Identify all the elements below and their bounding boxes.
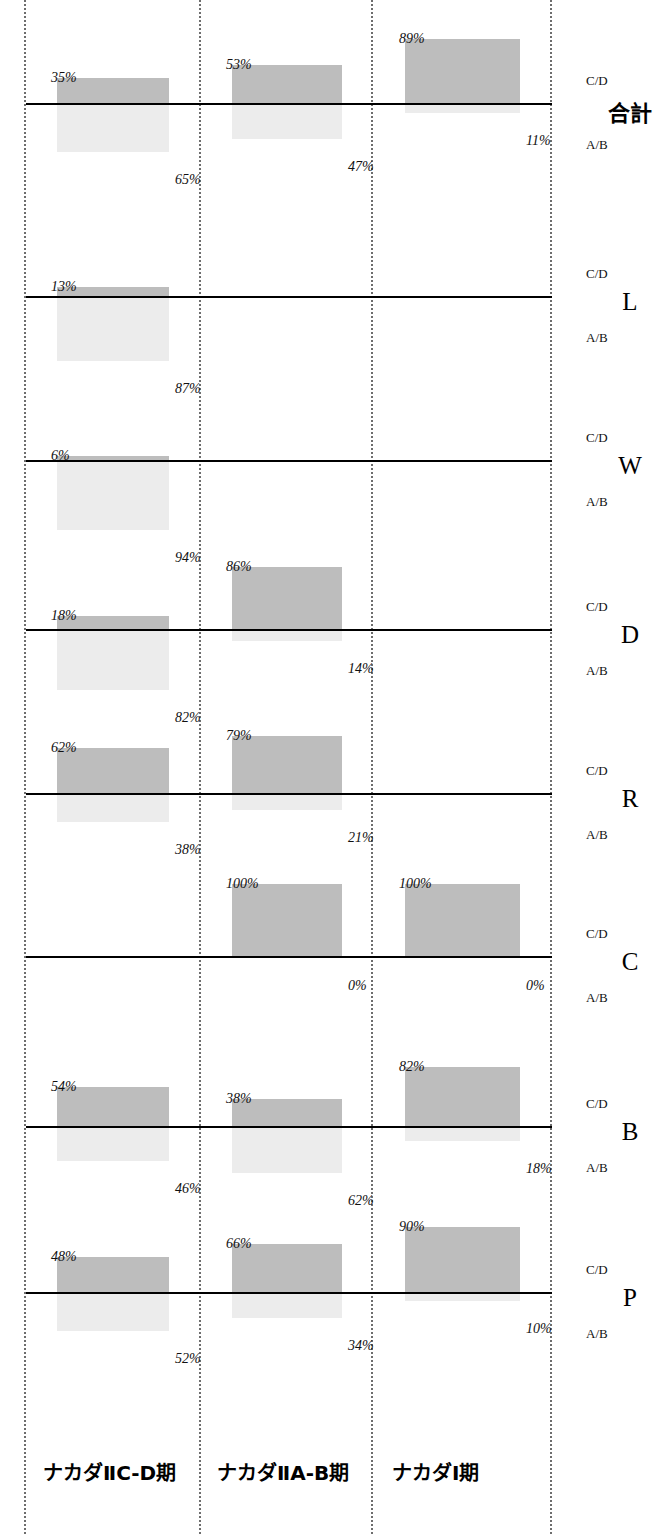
value-label-ab-P-g3: 48% bbox=[52, 1249, 78, 1265]
bar-ab-P-g1 bbox=[405, 1227, 520, 1292]
axis-sublabel-cd-P: C/D bbox=[586, 1262, 608, 1278]
value-label-cd-P-g2: 34% bbox=[348, 1338, 374, 1354]
axis-sublabel-ab-P: A/B bbox=[586, 1326, 608, 1342]
group-label-2: ナカダⅡA-B期 bbox=[217, 1457, 349, 1486]
value-label-ab-P-g1: 90% bbox=[399, 1219, 425, 1235]
value-label-cd-P-g3: 52% bbox=[176, 1351, 202, 1367]
group-label-1: ナカダⅠ期 bbox=[393, 1457, 480, 1486]
category-label-P: P bbox=[600, 1284, 657, 1312]
bar-cd-P-g2 bbox=[232, 1294, 342, 1318]
bar-cd-P-g1 bbox=[405, 1294, 520, 1301]
value-label-cd-P-g1: 10% bbox=[526, 1321, 552, 1337]
bar-cd-P-g3 bbox=[58, 1294, 170, 1331]
group-label-3: ナカダⅡC-D期 bbox=[44, 1457, 177, 1486]
value-label-ab-P-g2: 66% bbox=[226, 1236, 252, 1252]
